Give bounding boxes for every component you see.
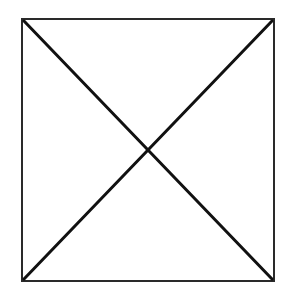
x-in-square-diagram xyxy=(0,0,288,296)
